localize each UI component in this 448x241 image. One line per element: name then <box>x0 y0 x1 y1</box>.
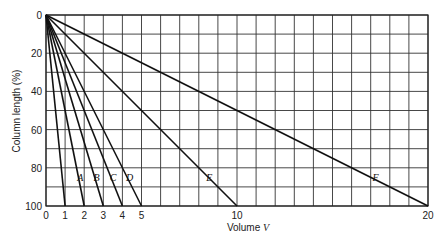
y-tick-label: 40 <box>31 86 43 97</box>
y-axis-ticks: 020406080100 <box>25 10 42 212</box>
y-tick-label: 0 <box>36 10 42 21</box>
y-tick-label: 60 <box>31 125 43 136</box>
series-label-b: B <box>94 172 100 183</box>
y-axis-title: Column length (%) <box>11 70 22 153</box>
x-axis-title-variable: V <box>263 222 271 233</box>
x-axis-title-main: Volume <box>227 222 263 233</box>
series-label-a: A <box>76 172 84 183</box>
x-tick-label: 20 <box>422 210 434 221</box>
x-tick-label: 1 <box>62 210 68 221</box>
y-tick-label: 20 <box>31 48 43 59</box>
series-label-e: E <box>205 172 212 183</box>
x-tick-label: 3 <box>101 210 107 221</box>
x-tick-label: 2 <box>81 210 87 221</box>
x-axis-title: Volume V <box>227 222 271 233</box>
series-label-d: D <box>125 172 134 183</box>
y-tick-label: 100 <box>25 201 42 212</box>
series-labels: ABCDEF <box>76 172 379 183</box>
series-label-c: C <box>110 172 117 183</box>
x-axis-ticks: 0123451020 <box>43 210 434 221</box>
y-tick-label: 80 <box>31 163 43 174</box>
x-tick-label: 4 <box>120 210 126 221</box>
x-tick-label: 10 <box>231 210 243 221</box>
series-label-f: F <box>371 172 379 183</box>
chart: ABCDEF 0123451020 020406080100 Volume V … <box>0 0 448 241</box>
x-tick-label: 5 <box>139 210 145 221</box>
x-tick-label: 0 <box>43 210 49 221</box>
